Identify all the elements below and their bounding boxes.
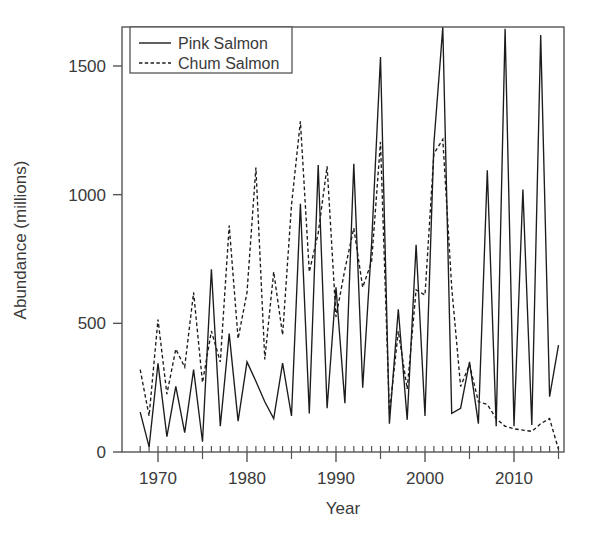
y-tick-label-1500: 1500 <box>68 57 106 76</box>
x-axis-title: Year <box>326 499 361 518</box>
y-tick-label-1000: 1000 <box>68 186 106 205</box>
y-tick-label-500: 500 <box>78 314 106 333</box>
x-tick-label-1980: 1980 <box>228 469 266 488</box>
salmon-abundance-chart: 050010001500 19701980199020002010 Year A… <box>0 0 600 554</box>
y-axis: 050010001500 <box>68 57 122 462</box>
x-tick-label-2000: 2000 <box>406 469 444 488</box>
series-line-pink-salmon <box>140 27 558 446</box>
x-tick-label-1990: 1990 <box>317 469 355 488</box>
legend-label-pink-salmon: Pink Salmon <box>178 35 268 52</box>
x-tick-label-2010: 2010 <box>495 469 533 488</box>
chart-legend: Pink Salmon Chum Salmon <box>130 27 292 73</box>
x-tick-label-1970: 1970 <box>139 469 177 488</box>
chart-canvas: 050010001500 19701980199020002010 Year A… <box>0 0 600 554</box>
legend-label-chum-salmon: Chum Salmon <box>178 55 279 72</box>
y-tick-label-0: 0 <box>97 443 106 462</box>
y-axis-title: Abundance (millions) <box>11 161 30 320</box>
